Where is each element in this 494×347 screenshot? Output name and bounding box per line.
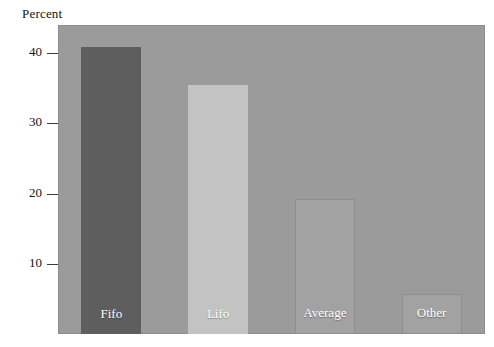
bar-fifo[interactable]: Fifo — [81, 47, 141, 334]
y-axis-tick-mark — [47, 123, 58, 124]
bar-chart: Percent 10203040 FifoLifoAverageOther — [0, 0, 494, 347]
y-axis-tick-mark — [47, 194, 58, 195]
bar-lifo[interactable]: Lifo — [188, 85, 248, 334]
y-axis-tick-label: 10 — [29, 255, 42, 271]
y-axis-tick-mark — [47, 53, 58, 54]
bar-average[interactable]: Average — [295, 199, 355, 334]
bar-label: Other — [403, 305, 461, 321]
bar-label: Lifo — [188, 306, 248, 322]
y-axis-tick-label: 20 — [29, 185, 42, 201]
bar-other[interactable]: Other — [402, 294, 462, 334]
bar-label: Average — [296, 305, 354, 321]
y-axis-tick-label: 40 — [29, 44, 42, 60]
y-axis-title: Percent — [22, 6, 62, 22]
bar-label: Fifo — [81, 306, 141, 322]
y-axis-tick-label: 30 — [29, 114, 42, 130]
y-axis-tick-mark — [47, 264, 58, 265]
plot-area: FifoLifoAverageOther — [58, 25, 485, 334]
